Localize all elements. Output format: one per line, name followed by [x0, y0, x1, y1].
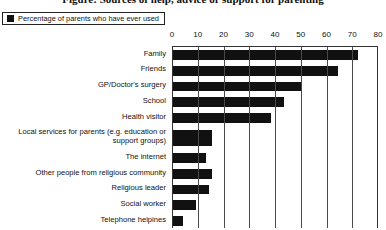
category-label: Telephone helpines [0, 212, 166, 228]
category-label: Friends [0, 62, 166, 78]
bar [173, 169, 212, 179]
bar [173, 153, 206, 163]
x-axis-tick-60: 60 [322, 30, 331, 40]
gridline-60 [327, 47, 328, 228]
category-label: Social worker [0, 196, 166, 212]
bar [173, 50, 358, 60]
bar [173, 216, 183, 226]
category-label: GP/Doctor's surgery [0, 78, 166, 94]
x-axis-tick-70: 70 [348, 30, 357, 40]
gridline-10 [198, 47, 199, 228]
x-axis-tick-80: 80 [374, 30, 383, 40]
category-label: School [0, 93, 166, 109]
x-axis-tick-0: 0 [170, 30, 174, 40]
legend-swatch-icon [7, 15, 14, 22]
category-label: The internet [0, 149, 166, 165]
bar [173, 200, 196, 210]
x-axis-tick-50: 50 [296, 30, 305, 40]
gridline-40 [275, 47, 276, 228]
plot-area [172, 46, 378, 228]
legend-label: Percentage of parents who have ever used [18, 14, 159, 23]
category-label: Other people from religious community [0, 165, 166, 181]
category-axis-labels: FamilyFriendsGP/Doctor's surgerySchoolHe… [0, 46, 169, 228]
x-axis-tick-20: 20 [219, 30, 228, 40]
bar [173, 113, 271, 123]
gridline-30 [249, 47, 250, 228]
category-label: Religious leader [0, 181, 166, 197]
bar-chart: Figure: Sources of help, advice or suppo… [0, 0, 386, 230]
category-label: Local services for parents (e.g. educati… [0, 125, 166, 149]
bar [173, 185, 209, 195]
bar [173, 130, 212, 145]
bar [173, 82, 302, 92]
category-label: Family [0, 46, 166, 62]
x-axis-ticks: 01020304050607080 [172, 30, 378, 43]
x-axis-tick-30: 30 [245, 30, 254, 40]
gridline-50 [301, 47, 302, 228]
bar [173, 97, 284, 107]
x-axis-tick-40: 40 [271, 30, 280, 40]
chart-legend: Percentage of parents who have ever used [2, 12, 165, 25]
gridline-70 [352, 47, 353, 228]
chart-title: Figure: Sources of help, advice or suppo… [0, 0, 386, 5]
category-label: Health visitor [0, 109, 166, 125]
x-axis-tick-10: 10 [193, 30, 202, 40]
gridline-20 [224, 47, 225, 228]
